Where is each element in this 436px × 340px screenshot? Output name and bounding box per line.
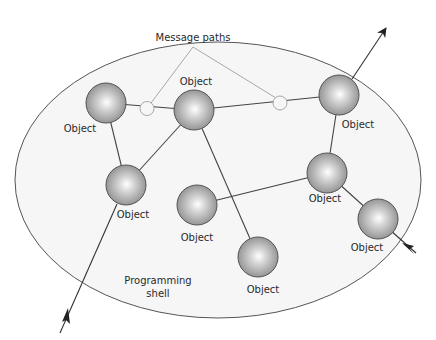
object-sphere-g xyxy=(358,199,398,239)
object-label-g: Object xyxy=(351,242,384,253)
object-sphere-a xyxy=(86,83,126,123)
object-label-f: Object xyxy=(181,232,214,243)
object-label-c: Object xyxy=(342,119,375,130)
object-label-a: Object xyxy=(64,123,97,134)
shell-label-line2: shell xyxy=(146,288,169,299)
programming-shell xyxy=(15,42,421,318)
shell-label-line1: Programming xyxy=(124,275,191,286)
message-paths-label: Message paths xyxy=(156,32,231,43)
object-sphere-d xyxy=(106,165,146,205)
object-sphere-e xyxy=(307,153,347,193)
object-network-diagram: Message paths Object Object Object Objec… xyxy=(0,0,436,340)
object-sphere-h xyxy=(238,237,278,277)
object-label-d: Object xyxy=(117,209,150,220)
object-label-e: Object xyxy=(309,193,342,204)
object-sphere-c xyxy=(319,75,359,115)
message-node xyxy=(140,102,154,116)
object-label-h: Object xyxy=(247,284,280,295)
object-sphere-f xyxy=(177,185,217,225)
arrow-out-top-right xyxy=(352,28,386,79)
message-node xyxy=(273,96,287,110)
object-label-b: Object xyxy=(180,76,213,87)
object-sphere-b xyxy=(174,90,214,130)
